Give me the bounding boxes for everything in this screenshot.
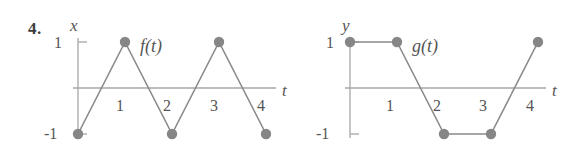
- right-xtick-label-2: 2: [433, 98, 441, 114]
- exercise-number: 4.: [28, 20, 42, 37]
- figure-container: 4. x t f(t) 1 -1 1 2 3 4 y t g(t) 1 -1 1…: [0, 0, 579, 156]
- right-ytick-label-1: 1: [326, 35, 334, 51]
- left-ytick-label-neg1: -1: [44, 126, 57, 142]
- right-function-label: g(t): [412, 37, 438, 55]
- plots-svg: [0, 0, 579, 156]
- right-xtick-label-3: 3: [479, 98, 487, 114]
- left-xtick-label-1: 1: [116, 98, 124, 114]
- left-point-2: [167, 129, 177, 139]
- left-point-3: [214, 37, 224, 47]
- left-ytick-label-1: 1: [54, 35, 62, 51]
- left-horizontal-axis-label: t: [282, 82, 287, 99]
- right-xtick-label-4: 4: [526, 98, 534, 114]
- right-horizontal-axis-label: t: [552, 82, 557, 99]
- left-vertical-axis-label: x: [70, 17, 78, 34]
- left-xtick-label-3: 3: [210, 98, 218, 114]
- right-ytick-label-neg1: -1: [316, 126, 329, 142]
- left-plot: [73, 37, 276, 139]
- left-point-4: [261, 129, 271, 139]
- left-xtick-label-2: 2: [163, 98, 171, 114]
- right-point-3: [486, 129, 496, 139]
- right-vertical-axis-label: y: [342, 17, 350, 34]
- right-plot: [345, 37, 546, 139]
- right-point-1: [392, 37, 402, 47]
- right-point-0: [345, 37, 355, 47]
- right-point-4: [533, 37, 543, 47]
- left-xtick-label-4: 4: [257, 98, 265, 114]
- left-point-1: [120, 37, 130, 47]
- right-xtick-label-1: 1: [386, 98, 394, 114]
- left-function-label: f(t): [140, 37, 162, 55]
- right-point-2: [439, 129, 449, 139]
- left-point-0: [73, 129, 83, 139]
